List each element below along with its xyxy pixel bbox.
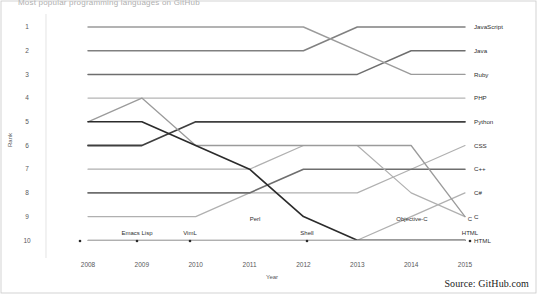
series-lines	[88, 27, 465, 240]
chart-border	[1, 1, 536, 293]
x-axis-ticks: 20082009201020112012201320142015	[81, 261, 473, 268]
series-end-label: Python	[474, 118, 494, 125]
data-point-marker	[136, 240, 139, 243]
series-end-label: CSS	[474, 142, 487, 149]
series-line	[88, 51, 465, 75]
x-axis-title: Year	[266, 274, 278, 280]
series-end-label: C#	[474, 189, 482, 196]
inner-annotation-label: VimL	[183, 230, 197, 236]
x-tick-label: 2015	[458, 261, 473, 268]
inner-annotation-label: Objective-C	[396, 216, 428, 222]
series-end-label: HTML	[474, 237, 491, 244]
y-tick-label: 5	[25, 118, 29, 125]
series-line	[88, 122, 465, 146]
y-tick-label: 7	[25, 165, 29, 172]
y-tick-label: 8	[25, 189, 29, 196]
y-tick-label: 4	[25, 94, 29, 101]
data-point-marker	[469, 240, 472, 243]
series-line	[88, 27, 465, 51]
series-end-labels: JavaScriptJavaRubyPHPPythonCSSC++C#CHTML	[474, 23, 503, 243]
y-tick-label: 10	[23, 237, 31, 244]
chart-canvas: 12345678910 2008200920102011201220132014…	[0, 0, 537, 294]
series-end-label: Ruby	[474, 71, 489, 78]
series-end-label: PHP	[474, 94, 487, 101]
x-tick-label: 2013	[350, 261, 365, 268]
series-end-label: C++	[474, 165, 486, 172]
y-axis-ticks: 12345678910	[23, 14, 46, 258]
series-end-label: Java	[474, 47, 488, 54]
inner-annotation-label: HTML	[462, 230, 479, 236]
y-tick-label: 1	[25, 23, 29, 30]
x-tick-label: 2014	[404, 261, 419, 268]
y-axis-title: Rank	[7, 132, 13, 147]
inner-annotation-label: Emacs Lisp	[121, 230, 153, 236]
x-tick-label: 2008	[81, 261, 96, 268]
inner-annotations: Emacs LispVimLPerlShellObjective-CCHTML	[121, 216, 478, 236]
x-tick-label: 2011	[243, 261, 257, 268]
y-tick-label: 2	[25, 47, 29, 54]
y-tick-label: 6	[25, 142, 29, 149]
y-tick-label: 9	[25, 213, 29, 220]
bump-chart: Most popular programming languages on Gi…	[0, 0, 537, 294]
data-point-marker	[189, 240, 192, 243]
inner-annotation-label: C	[468, 216, 473, 222]
series-end-label: C	[474, 213, 479, 220]
series-line	[88, 169, 465, 193]
x-tick-label: 2010	[188, 261, 203, 268]
x-tick-label: 2012	[296, 261, 311, 268]
data-point-marker	[79, 240, 82, 243]
data-point-marker	[306, 240, 309, 243]
source-attribution: Source: GitHub.com	[444, 278, 529, 289]
inner-annotation-label: Shell	[300, 230, 313, 236]
x-tick-label: 2009	[135, 261, 150, 268]
inner-annotation-label: Perl	[250, 216, 261, 222]
y-tick-label: 3	[25, 71, 29, 78]
series-end-label: JavaScript	[474, 23, 503, 30]
